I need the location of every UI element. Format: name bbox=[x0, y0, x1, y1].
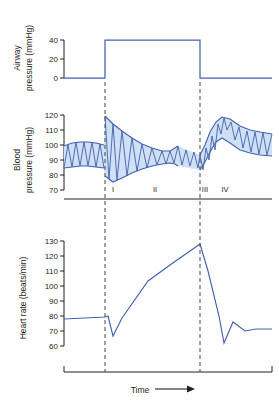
hr-tick-100: 100 bbox=[45, 282, 59, 291]
blood-tick-70: 70 bbox=[49, 186, 58, 195]
phase-label-iv: IV bbox=[221, 185, 228, 194]
hr-tick-80: 80 bbox=[49, 312, 58, 321]
blood-tick-80: 80 bbox=[49, 171, 58, 180]
blood-ylabel-line2: pressure (mmHg) bbox=[24, 127, 34, 193]
blood-tick-90: 90 bbox=[49, 156, 58, 165]
airway-tick-0: 0 bbox=[54, 74, 59, 83]
airway-pressure-trace bbox=[64, 40, 272, 78]
phase-label-ii: II bbox=[153, 185, 157, 194]
blood-tick-100: 100 bbox=[45, 141, 59, 150]
heart-rate-yaxis bbox=[60, 241, 64, 346]
heart-rate-ylabel: Heart rate (beats/min) bbox=[18, 256, 28, 339]
hr-tick-90: 90 bbox=[49, 297, 58, 306]
blood-tick-120: 120 bbox=[45, 111, 59, 120]
airway-ylabel-line1: Airway bbox=[12, 45, 22, 71]
airway-yaxis bbox=[60, 40, 64, 78]
airway-ylabel-line2: pressure (mmHg) bbox=[24, 25, 34, 91]
hr-tick-120: 120 bbox=[45, 252, 59, 261]
airway-tick-40: 40 bbox=[49, 36, 58, 45]
hr-tick-70: 70 bbox=[49, 327, 58, 336]
blood-tick-110: 110 bbox=[45, 126, 58, 135]
blood-ylabel-line1: Blood bbox=[12, 149, 22, 171]
hr-tick-110: 110 bbox=[45, 267, 58, 276]
airway-tick-20: 20 bbox=[49, 55, 58, 64]
figure-canvas: Airway pressure (mmHg) 40 20 0 Blood pre… bbox=[0, 0, 279, 405]
hr-tick-60: 60 bbox=[49, 342, 58, 351]
hr-tick-130: 130 bbox=[45, 237, 59, 246]
valsalva-manoeuvre-figure: Airway pressure (mmHg) 40 20 0 Blood pre… bbox=[0, 0, 279, 405]
phase-label-iii: III bbox=[202, 185, 208, 194]
arrow-right-icon bbox=[155, 386, 195, 393]
phase-label-i: I bbox=[112, 185, 114, 194]
heart-rate-trace bbox=[64, 244, 272, 343]
blood-yaxis bbox=[60, 115, 64, 190]
time-axis-label: Time bbox=[131, 385, 150, 395]
